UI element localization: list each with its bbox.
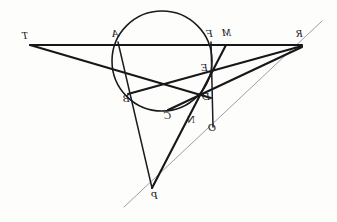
point-label-E: E bbox=[201, 62, 208, 73]
point-label-N: N bbox=[187, 114, 195, 125]
point-label-A: A bbox=[112, 28, 119, 39]
point-label-F: F bbox=[206, 28, 213, 39]
point-label-M: M bbox=[222, 27, 231, 38]
point-label-D: D bbox=[202, 91, 210, 102]
point-label-R: R bbox=[296, 28, 303, 39]
line-A-to-P bbox=[118, 42, 152, 188]
line-F-to-O bbox=[211, 42, 213, 127]
point-label-B: B bbox=[123, 93, 130, 104]
point-label-P: P bbox=[151, 190, 158, 201]
point-label-O: O bbox=[208, 122, 216, 133]
geometry-figure: T A F M R E B D C N O P bbox=[0, 0, 337, 222]
point-label-C: C bbox=[164, 110, 171, 121]
point-label-T: T bbox=[22, 30, 28, 41]
